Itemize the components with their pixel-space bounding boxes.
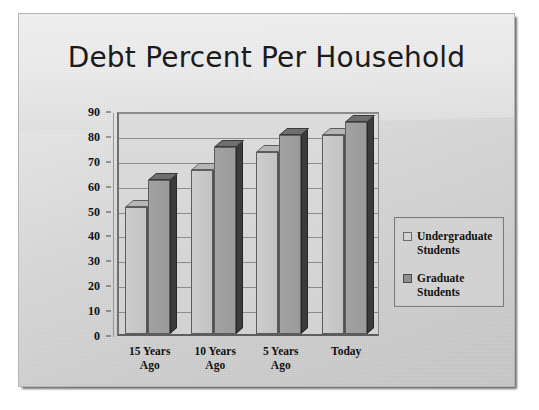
bar-graduate <box>345 122 367 334</box>
x-axis-tick-label: 15 Years Ago <box>117 344 183 372</box>
bar-face <box>279 135 301 334</box>
bar-undergraduate <box>125 207 147 334</box>
x-axis-tick-label: Today <box>313 344 379 358</box>
bar-face <box>345 122 367 334</box>
bar-face <box>125 207 147 334</box>
y-axis-tick-label: 20 <box>76 279 100 294</box>
y-axis-tick-label: 50 <box>76 204 100 219</box>
bar-graduate <box>214 147 236 334</box>
y-axis-tick-mark <box>106 161 111 162</box>
y-axis-tick-label: 90 <box>76 105 100 120</box>
bar-undergraduate <box>191 170 213 334</box>
bar-face <box>191 170 213 334</box>
y-axis-tick-mark <box>106 136 111 137</box>
bar-side-face <box>170 173 177 334</box>
y-axis-tick-mark <box>106 261 111 262</box>
y-axis-tick-label: 80 <box>76 129 100 144</box>
bar-undergraduate <box>322 135 344 334</box>
y-axis-tick-label: 30 <box>76 254 100 269</box>
y-axis-tick-label: 0 <box>76 329 100 344</box>
y-axis-tick-label: 60 <box>76 179 100 194</box>
y-axis-tick-mark <box>106 311 111 312</box>
bar-graduate <box>279 135 301 334</box>
legend-item: Graduate Students <box>403 272 464 299</box>
bar-chart: 0102030405060708090 15 Years Ago10 Years… <box>76 112 506 372</box>
bar-side-face <box>367 116 374 334</box>
legend-swatch-icon <box>403 274 412 283</box>
chart-legend: Undergraduate StudentsGraduate Students <box>394 217 504 307</box>
y-axis-tick-mark <box>106 286 111 287</box>
page-title: Debt Percent Per Household <box>19 41 514 74</box>
bar-graduate <box>148 180 170 334</box>
bar-face <box>148 180 170 334</box>
presentation-slide: Debt Percent Per Household 0102030405060… <box>18 13 515 387</box>
grid-line <box>119 113 378 114</box>
axis-spine-inner <box>113 113 114 337</box>
legend-label: Undergraduate Students <box>417 230 492 257</box>
bar-side-face <box>236 141 243 334</box>
y-axis-tick-mark <box>106 112 111 113</box>
y-axis-tick-label: 40 <box>76 229 100 244</box>
bar-face <box>322 135 344 334</box>
legend-label: Graduate Students <box>417 272 464 299</box>
slide-canvas: Debt Percent Per Household 0102030405060… <box>0 0 539 410</box>
bar-face <box>214 147 236 334</box>
y-axis-tick-mark <box>106 236 111 237</box>
y-axis-tick-mark <box>106 211 111 212</box>
y-axis-tick-label: 10 <box>76 304 100 319</box>
x-axis-tick-label: 10 Years Ago <box>182 344 248 372</box>
bar-side-face <box>301 129 308 334</box>
y-axis-tick-mark <box>106 186 111 187</box>
y-axis-tick-label: 70 <box>76 154 100 169</box>
legend-swatch-icon <box>403 232 412 241</box>
bar-face <box>256 152 278 334</box>
bar-undergraduate <box>256 152 278 334</box>
legend-item: Undergraduate Students <box>403 230 492 257</box>
plot-area <box>117 112 379 336</box>
y-axis-tick-mark <box>106 336 111 337</box>
x-axis-tick-label: 5 Years Ago <box>248 344 314 372</box>
